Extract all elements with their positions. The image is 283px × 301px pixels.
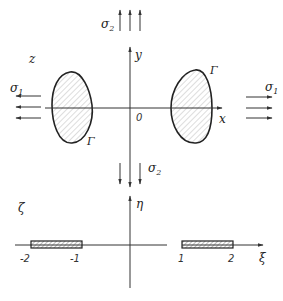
sigma1-right-arrows (246, 97, 272, 118)
sigma2-top-label: σ2 (101, 17, 114, 33)
tick-label-2: 2 (228, 253, 234, 264)
tick-label-neg1: -1 (70, 253, 80, 264)
top-figure: σ2 y z x 0 Γ Γ σ1 σ1 (10, 10, 278, 187)
right-slit (182, 241, 233, 248)
y-axis-label: y (134, 48, 142, 62)
sigma1-left-label: σ1 (10, 81, 23, 97)
tick-label-neg2: -2 (20, 253, 30, 264)
x-axis-label: x (219, 112, 226, 126)
xi-axis-label: ξ (259, 251, 267, 265)
origin-label: 0 (136, 112, 142, 123)
sigma2-up-arrows (120, 10, 140, 31)
bottom-figure: η ζ ξ -2 -1 1 2 (15, 196, 267, 288)
conformal-mapping-diagram: σ2 y z x 0 Γ Γ σ1 σ1 (0, 0, 283, 301)
zeta-plane-label: ζ (18, 201, 26, 215)
gamma-label-right: Γ (209, 64, 218, 77)
eta-axis-label: η (136, 197, 144, 211)
sigma2-bottom-label: σ2 (148, 161, 161, 177)
right-contour (171, 70, 212, 143)
z-plane-label: z (28, 52, 36, 66)
sigma1-right-label: σ1 (265, 80, 278, 96)
left-slit (31, 241, 82, 248)
sigma2-down-arrows (120, 148, 140, 187)
left-contour (52, 72, 92, 143)
tick-label-1: 1 (178, 253, 184, 264)
gamma-label-left: Γ (86, 135, 95, 148)
sigma1-left-arrows (16, 96, 41, 118)
